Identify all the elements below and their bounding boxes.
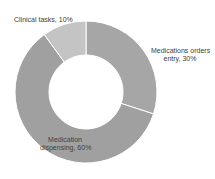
slice-orders-entry (86, 21, 157, 114)
label-clinical-tasks: Clinical tasks, 10% (14, 16, 73, 24)
donut-chart (0, 0, 215, 179)
label-orders-entry: Medications orders entry, 30% (151, 47, 209, 63)
label-dispensing: Medication dispensing, 60% (40, 136, 90, 152)
